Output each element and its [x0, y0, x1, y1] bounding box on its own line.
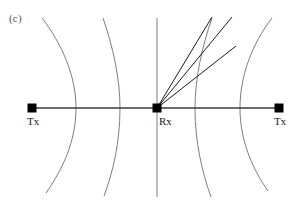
- multipath-ray-group: [157, 17, 236, 108]
- rx-center-marker: [153, 104, 162, 113]
- tx-left-marker: [28, 104, 37, 113]
- tx-right-marker: [275, 104, 284, 113]
- tx-right-label: Tx: [274, 115, 286, 127]
- iso-range-curve-1: [42, 18, 76, 193]
- figure-panel-c: (c) Tx Rx Tx: [0, 0, 301, 208]
- diagram-canvas: [0, 0, 301, 208]
- panel-label: (c): [9, 12, 22, 24]
- ray-1: [157, 17, 212, 108]
- iso-range-curve-5: [240, 18, 272, 191]
- tx-left-label: Tx: [27, 115, 39, 127]
- rx-center-label: Rx: [159, 115, 172, 127]
- ray-2: [157, 17, 232, 108]
- ray-3: [157, 46, 236, 108]
- iso-range-curve-2: [103, 18, 120, 196]
